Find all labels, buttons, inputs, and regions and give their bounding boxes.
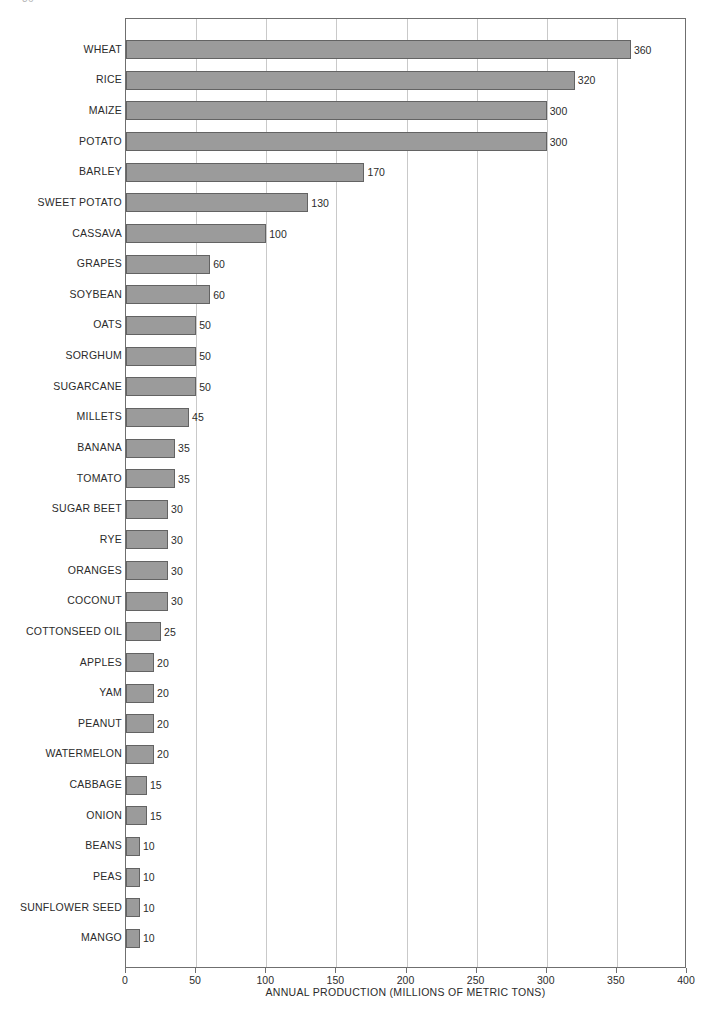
- x-axis-tick: [265, 968, 266, 973]
- x-axis-tick: [546, 968, 547, 973]
- bar-row: 300: [126, 96, 685, 127]
- bar-row: 50: [126, 310, 685, 341]
- bar-row: 50: [126, 341, 685, 372]
- category-label: COTTONSEED OIL: [0, 616, 122, 647]
- x-axis-tick: [406, 968, 407, 973]
- bar-row: 10: [126, 862, 685, 893]
- bar-value-label: 20: [157, 749, 169, 760]
- category-label: SUNFLOWER SEED: [0, 891, 122, 922]
- x-axis-tick: [125, 968, 126, 973]
- bar: 300: [126, 101, 547, 120]
- category-label: GRAPES: [0, 248, 122, 279]
- bar-value-label: 130: [311, 198, 329, 209]
- bar-row: 25: [126, 617, 685, 648]
- x-axis-tick-label: 250: [467, 974, 485, 986]
- x-axis-tick: [476, 968, 477, 973]
- bar: 100: [126, 224, 266, 243]
- bar-value-label: 30: [171, 596, 183, 607]
- x-axis-tick-label: 300: [537, 974, 555, 986]
- category-label: SUGAR BEET: [0, 493, 122, 524]
- category-label: CABBAGE: [0, 769, 122, 800]
- category-label: YAM: [0, 677, 122, 708]
- category-label: ONION: [0, 799, 122, 830]
- bar: 30: [126, 592, 168, 611]
- bar: 50: [126, 377, 196, 396]
- bar-row: 20: [126, 678, 685, 709]
- bar-row: 60: [126, 279, 685, 310]
- bar-value-label: 170: [367, 167, 385, 178]
- bar-row: 30: [126, 494, 685, 525]
- category-label: BANANA: [0, 432, 122, 463]
- category-label: RYE: [0, 524, 122, 555]
- bar-value-label: 35: [178, 473, 190, 484]
- bar: 15: [126, 806, 147, 825]
- category-label: SUGARCANE: [0, 370, 122, 401]
- bar: 20: [126, 745, 154, 764]
- bar: 45: [126, 408, 189, 427]
- x-axis-tick: [616, 968, 617, 973]
- category-label: COCONUT: [0, 585, 122, 616]
- x-axis-tick-label: 400: [677, 974, 695, 986]
- bar-row: 50: [126, 371, 685, 402]
- bar: 20: [126, 714, 154, 733]
- bar-row: 320: [126, 65, 685, 96]
- category-label: BEANS: [0, 830, 122, 861]
- bar-row: 30: [126, 586, 685, 617]
- bar-value-label: 60: [213, 290, 225, 301]
- x-axis-tick-label: 100: [256, 974, 274, 986]
- bar-row: 60: [126, 249, 685, 280]
- bar-row: 15: [126, 770, 685, 801]
- bar: 20: [126, 684, 154, 703]
- bar-value-label: 300: [550, 106, 568, 117]
- bar-row: 30: [126, 525, 685, 556]
- bar-row: 130: [126, 188, 685, 219]
- category-label: MAIZE: [0, 95, 122, 126]
- bar-value-label: 300: [550, 136, 568, 147]
- x-axis-tick: [335, 968, 336, 973]
- bar: 30: [126, 530, 168, 549]
- category-label: BARLEY: [0, 156, 122, 187]
- x-axis-tick-label: 0: [122, 974, 128, 986]
- bar-row: 300: [126, 126, 685, 157]
- category-label: APPLES: [0, 646, 122, 677]
- bar: 50: [126, 347, 196, 366]
- plot-area: 3603203003001701301006060505050453535303…: [125, 18, 686, 968]
- bar-series: 3603203003001701301006060505050453535303…: [126, 19, 685, 967]
- bar: 50: [126, 316, 196, 335]
- bar: 10: [126, 868, 140, 887]
- bar: 35: [126, 439, 175, 458]
- bar-value-label: 35: [178, 443, 190, 454]
- bar-row: 360: [126, 34, 685, 65]
- bar-value-label: 360: [634, 44, 652, 55]
- bar-row: 35: [126, 463, 685, 494]
- x-axis-tick-label: 50: [189, 974, 201, 986]
- x-axis-tick-label: 200: [397, 974, 415, 986]
- bar: 300: [126, 132, 547, 151]
- bar-value-label: 20: [157, 688, 169, 699]
- category-label: WATERMELON: [0, 738, 122, 769]
- bar-value-label: 10: [143, 933, 155, 944]
- bar-value-label: 10: [143, 872, 155, 883]
- category-axis-labels: WHEATRICEMAIZEPOTATOBARLEYSWEET POTATOCA…: [0, 18, 122, 968]
- bar-value-label: 30: [171, 565, 183, 576]
- bar-value-label: 320: [578, 75, 596, 86]
- bar-row: 20: [126, 739, 685, 770]
- bar: 30: [126, 561, 168, 580]
- bar: 30: [126, 500, 168, 519]
- bar: 10: [126, 837, 140, 856]
- bar: 25: [126, 622, 161, 641]
- bar-value-label: 100: [269, 228, 287, 239]
- x-axis-tick: [195, 968, 196, 973]
- bar-row: 15: [126, 800, 685, 831]
- x-axis-tick-label: 350: [607, 974, 625, 986]
- bar-row: 30: [126, 555, 685, 586]
- bar-row: 10: [126, 923, 685, 954]
- bar-row: 35: [126, 433, 685, 464]
- category-label: POTATO: [0, 125, 122, 156]
- category-label: WHEAT: [0, 33, 122, 64]
- bar-row: 20: [126, 709, 685, 740]
- bar-value-label: 10: [143, 841, 155, 852]
- bar-value-label: 15: [150, 811, 162, 822]
- bar: 20: [126, 653, 154, 672]
- category-label: SORGHUM: [0, 340, 122, 371]
